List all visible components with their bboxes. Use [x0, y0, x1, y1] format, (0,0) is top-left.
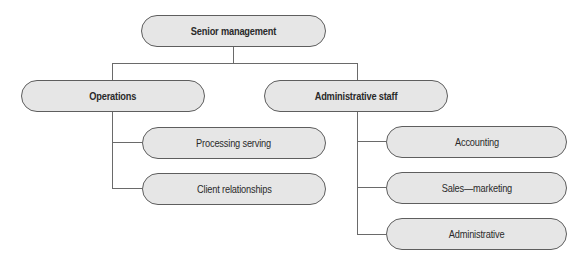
node-sales-marketing: Sales—marketing [386, 172, 567, 204]
node-administrative: Administrative [386, 218, 567, 250]
node-operations: Operations [21, 80, 205, 112]
node-senior-management: Senior management [141, 15, 326, 47]
node-label: Senior management [191, 25, 276, 37]
node-label: Processing serving [197, 137, 272, 149]
node-accounting: Accounting [386, 126, 567, 158]
node-label: Sales—marketing [441, 182, 511, 194]
node-label: Operations [89, 90, 136, 102]
node-processing-serving: Processing serving [142, 127, 326, 159]
connector-admin-staff-trunk [357, 111, 358, 234]
connector-accounting [357, 141, 386, 142]
connector-admin-staff-up [357, 63, 358, 80]
connector-operations-trunk [112, 111, 113, 189]
connector-root-down [233, 47, 234, 63]
connector-client [112, 188, 142, 189]
node-label: Client relationships [197, 183, 272, 195]
node-label: Accounting [455, 136, 499, 148]
node-label: Administrative staff [315, 90, 398, 102]
connector-operations-up [112, 63, 113, 80]
connector-sales [357, 187, 386, 188]
node-client-relationships: Client relationships [142, 173, 326, 205]
connector-processing [112, 142, 142, 143]
node-label: Administrative [449, 228, 505, 240]
node-administrative-staff: Administrative staff [264, 80, 448, 112]
connector-administrative [357, 234, 386, 235]
connector-root-horizontal [112, 63, 358, 64]
